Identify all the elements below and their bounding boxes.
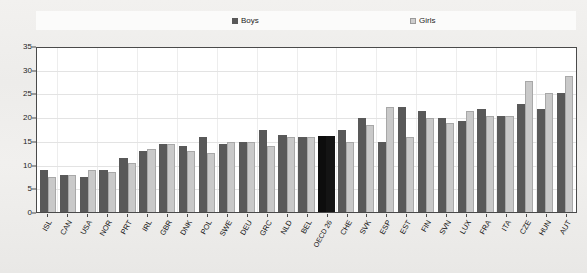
x-axis-cell: GRC <box>257 214 277 270</box>
bar-girls <box>128 163 136 212</box>
y-axis-tick-label: 35 <box>2 43 32 51</box>
x-axis-tick-label: GBR <box>159 219 174 237</box>
legend-item-boys: Boys <box>232 17 259 25</box>
x-axis-tick-label: FIN <box>420 219 433 233</box>
bar-girls <box>108 172 116 212</box>
bar-girls <box>187 151 195 212</box>
x-axis-cell: IRL <box>137 214 157 270</box>
x-axis-tick-label: CZE <box>519 219 533 236</box>
bar-group <box>237 48 257 212</box>
bar-group <box>456 48 476 212</box>
bar-girls <box>88 170 96 212</box>
x-axis-cell: SVN <box>436 214 456 270</box>
bar-boys <box>537 109 545 212</box>
x-axis-cell: PRT <box>117 214 137 270</box>
x-axis-tick-label: CAN <box>59 219 73 236</box>
y-axis-tick-label: 5 <box>2 185 32 193</box>
bar-group <box>217 48 237 212</box>
x-axis-tick-mark <box>87 214 88 217</box>
x-axis-tick-label: NLD <box>279 219 293 236</box>
y-axis-tick-label: 0 <box>2 209 32 217</box>
bar-boys <box>139 151 147 212</box>
bar-boys <box>99 170 107 212</box>
x-axis-tick-label: HUN <box>538 219 553 237</box>
x-axis-tick-mark <box>187 214 188 217</box>
bar-girls <box>525 81 533 212</box>
bar-girls <box>48 177 56 212</box>
bar-girls <box>426 118 434 212</box>
x-axis-tick-mark <box>127 214 128 217</box>
x-axis-cell: DNK <box>177 214 197 270</box>
bar-group <box>118 48 138 212</box>
x-axis-cell: FRA <box>476 214 496 270</box>
x-axis-tick-label: SWE <box>218 219 233 238</box>
bar-girls <box>167 144 175 212</box>
x-axis-tick-label: GRC <box>258 219 273 237</box>
x-axis-tick-mark <box>466 214 467 217</box>
x-axis-tick-mark <box>506 214 507 217</box>
bar-group <box>555 48 575 212</box>
x-axis-tick-mark <box>167 214 168 217</box>
bar-boys <box>239 142 247 212</box>
x-axis-tick-mark <box>247 214 248 217</box>
x-axis-cell: GBR <box>157 214 177 270</box>
x-axis-cell: EST <box>396 214 416 270</box>
bar-boys <box>318 136 326 212</box>
boys-swatch-icon <box>232 18 238 24</box>
x-axis-tick-label: BEL <box>299 219 313 235</box>
bar-girls <box>346 142 354 212</box>
x-axis-tick-mark <box>426 214 427 217</box>
bar-girls <box>386 107 394 212</box>
x-axis-tick-mark <box>307 214 308 217</box>
bar-boys <box>358 118 366 212</box>
bar-boys <box>557 93 565 212</box>
bar-boys <box>338 130 346 212</box>
bar-boys <box>517 104 525 212</box>
bar-group <box>515 48 535 212</box>
bar-girls <box>227 142 235 212</box>
bar-group <box>137 48 157 212</box>
bar-boys <box>60 175 68 212</box>
bar-boys <box>378 142 386 212</box>
x-axis-tick-mark <box>546 214 547 217</box>
x-axis-tick-label: FRA <box>479 219 493 236</box>
bar-girls <box>545 93 553 212</box>
y-axis: 05101520253035 <box>0 47 36 213</box>
x-axis-cell: NLD <box>277 214 297 270</box>
x-axis-tick-label: AUT <box>559 219 573 236</box>
bar-group <box>78 48 98 212</box>
bar-boys <box>477 109 485 212</box>
girls-swatch-icon <box>410 18 416 24</box>
x-axis-cell: CAN <box>57 214 77 270</box>
legend-label-girls: Girls <box>419 17 435 25</box>
x-axis: ISLCANUSANORPRTIRLGBRDNKPOLSWEDEUGRCNLDB… <box>36 214 577 270</box>
x-axis-tick-mark <box>566 214 567 217</box>
x-axis-tick-mark <box>526 214 527 217</box>
x-axis-tick-mark <box>287 214 288 217</box>
x-axis-cell: NOR <box>97 214 117 270</box>
x-axis-cell: FIN <box>416 214 436 270</box>
chart-legend: Boys Girls <box>36 11 576 30</box>
bar-group <box>336 48 356 212</box>
bar-group <box>177 48 197 212</box>
bar-group <box>476 48 496 212</box>
x-axis-cell: ISL <box>37 214 57 270</box>
bar-boys <box>199 137 207 212</box>
y-axis-tick-label: 15 <box>2 138 32 146</box>
x-axis-cell: OECD 26 <box>317 214 337 270</box>
x-axis-tick-mark <box>486 214 487 217</box>
x-axis-tick-label: ITA <box>501 219 513 232</box>
legend-label-boys: Boys <box>241 17 259 25</box>
x-axis-tick-mark <box>386 214 387 217</box>
bar-groups <box>37 48 576 212</box>
bar-boys <box>40 170 48 212</box>
x-axis-cell: CHE <box>337 214 357 270</box>
bar-group <box>396 48 416 212</box>
x-axis-tick-label: DEU <box>239 219 253 236</box>
x-axis-tick-mark <box>327 214 328 217</box>
x-axis-tick-mark <box>446 214 447 217</box>
x-axis-cell: AUT <box>556 214 576 270</box>
x-axis-tick-mark <box>147 214 148 217</box>
bar-girls <box>366 125 374 212</box>
bar-group <box>277 48 297 212</box>
